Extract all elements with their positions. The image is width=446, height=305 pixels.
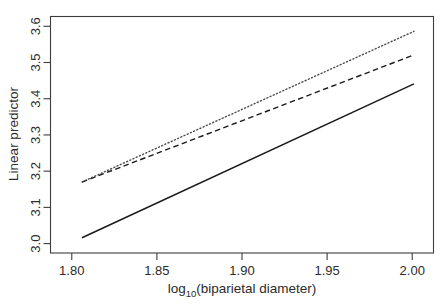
y-tick-label: 3.2	[29, 162, 44, 180]
x-tick-label: 2.00	[400, 263, 425, 278]
x-tick-label: 1.90	[229, 263, 254, 278]
x-axis-title-subscript: 10	[186, 288, 197, 299]
x-axis-title-rest: (biparietal diameter)	[196, 281, 316, 296]
y-tick-label: 3.1	[29, 198, 44, 216]
x-tick-label: 1.95	[314, 263, 339, 278]
y-tick-label: 3.0	[29, 235, 44, 253]
y-tick-label: 3.4	[29, 90, 44, 108]
chart-background	[0, 0, 446, 305]
y-tick-label: 3.3	[29, 126, 44, 144]
chart-figure: 3.03.13.23.33.43.53.6 1.801.851.901.952.…	[0, 0, 446, 305]
x-tick-label: 1.85	[144, 263, 169, 278]
x-tick-label: 1.80	[59, 263, 84, 278]
y-tick-label: 3.5	[29, 53, 44, 71]
y-axis-title: Linear predictor	[6, 87, 21, 181]
y-tick-label: 3.6	[29, 17, 44, 35]
x-axis-title-base: log	[168, 281, 186, 296]
linear-predictor-plot: 3.03.13.23.33.43.53.6 1.801.851.901.952.…	[0, 0, 446, 305]
